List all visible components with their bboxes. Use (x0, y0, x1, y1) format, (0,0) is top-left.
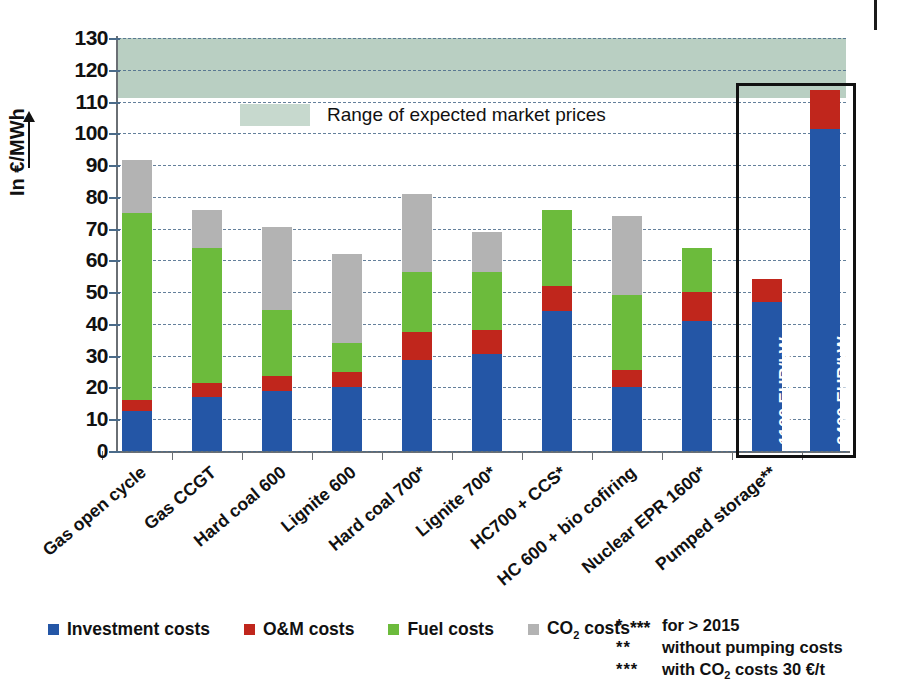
legend-label: Fuel costs (407, 619, 494, 640)
x-axis-tick (242, 451, 243, 460)
bar-segment (402, 272, 432, 332)
footnote-row: **without pumping costs (616, 638, 843, 657)
footnote-text: with CO2 costs 30 €/t (662, 660, 825, 681)
pumped-storage-highlight-box (736, 83, 856, 458)
x-axis-tick (452, 451, 453, 460)
bar-segment (192, 210, 222, 248)
legend-label: Investment costs (67, 619, 210, 640)
y-axis-tick (109, 229, 120, 231)
y-axis-tick-label: 10 (44, 408, 108, 429)
bar-segment (192, 397, 222, 451)
bar-segment (262, 391, 292, 451)
bar-segment (402, 360, 432, 451)
x-axis-tick (592, 451, 593, 460)
y-axis-tick-label: 60 (44, 249, 108, 270)
chart-legend: Investment costsO&M costsFuel costsCO2 c… (48, 618, 684, 641)
gridline (118, 38, 846, 39)
bar (542, 210, 572, 451)
legend-item: Fuel costs (388, 619, 494, 640)
bar-segment (262, 376, 292, 390)
y-axis-tick (109, 102, 120, 104)
bar-segment (472, 354, 502, 451)
bar-segment (612, 295, 642, 370)
legend-item: O&M costs (244, 619, 354, 640)
bar-segment (122, 160, 152, 212)
bar-segment (612, 370, 642, 387)
legend-swatch (48, 624, 59, 635)
legend-swatch (388, 624, 399, 635)
bar (612, 216, 642, 451)
footnote-row: ***with CO2 costs 30 €/t (616, 660, 843, 681)
bar-segment (122, 400, 152, 411)
gridline (118, 70, 846, 71)
x-axis-tick (172, 451, 173, 460)
footnote-text: without pumping costs (662, 638, 843, 657)
y-axis-tick-label: 100 (44, 122, 108, 143)
bar-segment (262, 227, 292, 310)
x-axis-tick (312, 451, 313, 460)
y-axis-tick (109, 387, 120, 389)
footnote-row: *for > 2015 (616, 616, 843, 635)
bar-segment (542, 286, 572, 311)
bar-segment (542, 210, 572, 286)
bar-segment (332, 372, 362, 388)
y-axis-tick (109, 356, 120, 358)
bar-segment (542, 311, 572, 451)
chart-root: In €/MWh 1100 EUR/kW2400 EUR/kW 01020304… (0, 0, 901, 692)
bar-segment (332, 343, 362, 372)
legend-swatch (244, 624, 255, 635)
y-axis-tick (109, 324, 120, 326)
bar (122, 160, 152, 451)
bar-segment (402, 332, 432, 361)
legend-item: Investment costs (48, 619, 210, 640)
y-axis-tick (109, 260, 120, 262)
plot-area: 1100 EUR/kW2400 EUR/kW (118, 38, 846, 451)
y-axis-tick-label: 130 (44, 27, 108, 48)
x-axis-tick (522, 451, 523, 460)
y-axis-tick-label: 30 (44, 345, 108, 366)
chart-footnotes: *for > 2015**without pumping costs***wit… (616, 616, 843, 684)
legend-swatch (528, 624, 539, 635)
y-axis-tick-label: 50 (44, 281, 108, 302)
footnote-text: for > 2015 (662, 616, 740, 635)
bar (332, 254, 362, 451)
y-axis-tick-label: 90 (44, 154, 108, 175)
bar-segment (472, 330, 502, 354)
bar-segment (612, 216, 642, 295)
bar-segment (262, 310, 292, 377)
footnote-marker: * (616, 616, 662, 635)
bar (262, 227, 292, 451)
bar-segment (122, 213, 152, 400)
y-axis-tick-label: 20 (44, 376, 108, 397)
bar-segment (332, 387, 362, 451)
bar-segment (122, 411, 152, 451)
bar-segment (402, 194, 432, 272)
bar-segment (332, 254, 362, 343)
bar-segment (192, 383, 222, 397)
bar-segment (472, 232, 502, 272)
y-axis-tick (109, 38, 120, 40)
y-axis-tick (109, 419, 120, 421)
x-axis-tick (662, 451, 663, 460)
y-axis-tick-label: 110 (44, 91, 108, 112)
y-axis-tick-label: 120 (44, 59, 108, 80)
bar-segment (192, 248, 222, 383)
y-axis-tick-label: 80 (44, 186, 108, 207)
bar-segment (612, 387, 642, 451)
y-axis-tick (109, 70, 120, 72)
legend-label: O&M costs (263, 619, 354, 640)
bar (472, 232, 502, 451)
page-corner-rule (874, 0, 877, 30)
footnote-marker: ** (616, 638, 662, 657)
band-key-swatch (240, 104, 310, 126)
y-axis-tick (109, 292, 120, 294)
x-axis-tick (382, 451, 383, 460)
y-axis-tick (109, 197, 120, 199)
x-axis-tick (732, 451, 733, 460)
y-axis-tick-label: 40 (44, 313, 108, 334)
bar (402, 194, 432, 451)
y-axis-tick-label: 0 (44, 440, 108, 461)
bar-segment (682, 321, 712, 451)
y-axis-tick (109, 451, 120, 453)
y-axis-tick (109, 165, 120, 167)
